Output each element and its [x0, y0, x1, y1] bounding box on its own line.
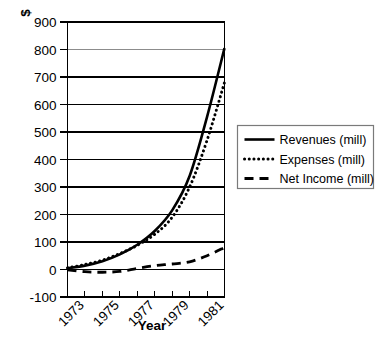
legend-label-0: Revenues (mill) [280, 133, 367, 147]
y-tick-label-600: 600 [34, 98, 57, 113]
x-tick-label-1973: 1973 [55, 298, 87, 330]
y-tick-label-900: 900 [34, 15, 57, 30]
gridlines [68, 22, 225, 270]
y-tick-label-100: 100 [34, 235, 57, 250]
series-line-dotted [68, 83, 225, 268]
y-tick-label--100: -100 [29, 290, 56, 305]
x-tick-label-1981: 1981 [195, 298, 227, 330]
y-tick-label-800: 800 [34, 43, 57, 58]
x-axis-tickmarks [68, 291, 225, 297]
legend-label-2: Net Income (mill) [280, 172, 374, 186]
y-tick-label-500: 500 [34, 125, 57, 140]
y-tick-label-400: 400 [34, 153, 57, 168]
y-tick-label-200: 200 [34, 208, 57, 223]
legend-label-1: Expenses (mill) [280, 153, 365, 167]
series-line-solid [68, 48, 225, 268]
data-series [68, 48, 225, 272]
y-tick-label-300: 300 [34, 180, 57, 195]
y-tick-label-0: 0 [49, 263, 57, 278]
x-axis-title: Year [138, 318, 167, 333]
y-axis-title: $ [18, 9, 33, 17]
chart-legend: Revenues (mill)Expenses (mill)Net Income… [238, 126, 374, 189]
line-chart: -1000100200300400500600700800900 1973197… [0, 0, 376, 340]
x-tick-label-1975: 1975 [90, 298, 122, 330]
chart-container: -1000100200300400500600700800900 1973197… [0, 0, 376, 340]
y-tick-label-700: 700 [34, 70, 57, 85]
series-line-dashed [68, 248, 225, 273]
y-axis-tick-labels: -1000100200300400500600700800900 [29, 15, 67, 305]
